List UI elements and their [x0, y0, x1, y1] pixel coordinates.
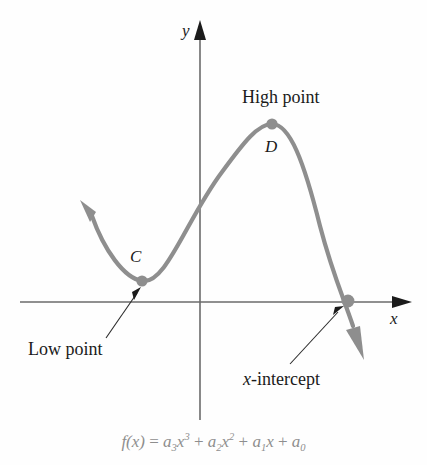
formula-lhs: f(x) — [121, 432, 145, 451]
high-point-marker — [266, 118, 277, 129]
formula-term-0: a3x3 — [163, 432, 190, 451]
x-intercept-label: x-intercept — [243, 370, 320, 388]
x-intercept-label-italic: x — [243, 369, 251, 389]
x-intercept-leader-arrowhead-icon — [333, 306, 344, 315]
y-axis-label: y — [182, 22, 190, 39]
formula-term-1: a2x2 — [208, 432, 235, 451]
point-d-label: D — [265, 138, 277, 155]
cubic-curve — [80, 124, 364, 360]
low-point-label: Low point — [28, 340, 103, 358]
formula-term-2: a1x — [252, 432, 273, 451]
high-point-label: High point — [242, 88, 320, 106]
x-axis-arrowhead-icon — [392, 296, 412, 308]
y-axis — [194, 20, 206, 420]
function-formula: f(x) = a3x3 + a2x2 + a1x + a0 — [0, 432, 427, 454]
curve-right-arrowhead-icon — [346, 326, 364, 360]
low-point-leader-line — [106, 287, 141, 338]
formula-equals: = — [149, 432, 159, 451]
formula-term-3: a0 — [292, 432, 306, 451]
x-intercept-label-rest: -intercept — [251, 369, 320, 389]
cubic-function-graph-figure — [0, 0, 427, 465]
y-axis-arrowhead-icon — [194, 20, 206, 40]
x-axis-label: x — [390, 310, 398, 327]
x-intercept-marker — [342, 295, 355, 308]
low-point-marker — [136, 275, 147, 286]
point-c-label: C — [130, 248, 141, 265]
x-intercept-leader-line — [290, 306, 344, 364]
